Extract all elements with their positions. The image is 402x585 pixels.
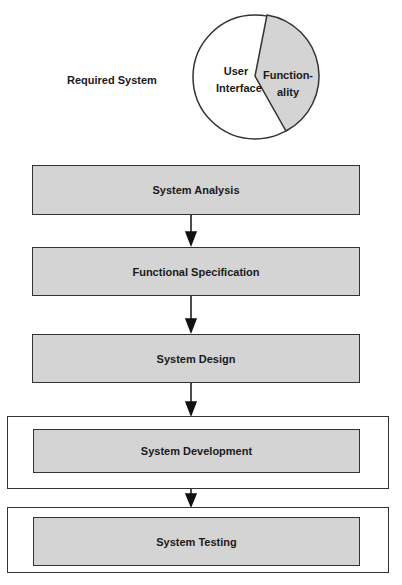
step-functional-specification: Functional Specification	[32, 247, 360, 296]
step-system-design: System Design	[32, 334, 360, 383]
step-system-testing: System Testing	[33, 517, 360, 566]
step-system-analysis: System Analysis	[32, 165, 360, 215]
step-system-development: System Development	[33, 429, 360, 473]
pie-slice-functionality-label: Function-ality	[258, 67, 318, 101]
pie-slice-user-interface-label: UserInterface	[216, 63, 256, 97]
